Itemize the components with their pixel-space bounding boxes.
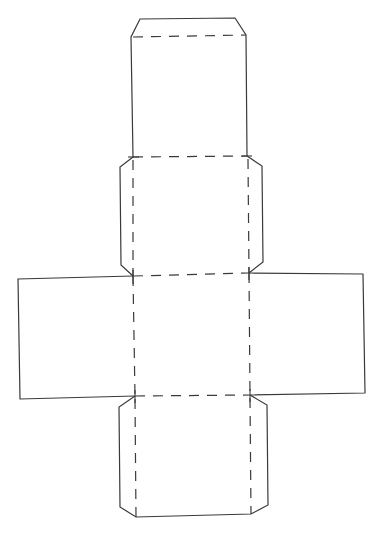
left-side-panel-outline bbox=[18, 276, 135, 399]
upper-body-panel bbox=[120, 156, 263, 276]
top-lid-panel bbox=[131, 18, 247, 157]
bottom-left-fold-line bbox=[135, 399, 136, 517]
upper-top-fold-line bbox=[133, 156, 247, 157]
bottom-panel bbox=[119, 395, 268, 517]
box-net-diagram bbox=[0, 0, 385, 536]
center-bottom-fold-line bbox=[135, 395, 250, 396]
center-left-fold-line bbox=[133, 276, 135, 396]
center-top-fold-line bbox=[133, 273, 249, 276]
center-row bbox=[18, 267, 365, 403]
bottom-right-fold-line bbox=[250, 398, 251, 514]
top-flap-fold-line bbox=[133, 35, 246, 37]
top-flap-outline bbox=[131, 18, 247, 157]
upper-right-fold-line bbox=[248, 159, 249, 273]
center-right-fold-line bbox=[249, 273, 250, 395]
upper-left-tab-outline bbox=[120, 157, 133, 276]
bottom-panel-outline bbox=[119, 395, 268, 517]
right-side-panel-outline bbox=[249, 273, 365, 395]
